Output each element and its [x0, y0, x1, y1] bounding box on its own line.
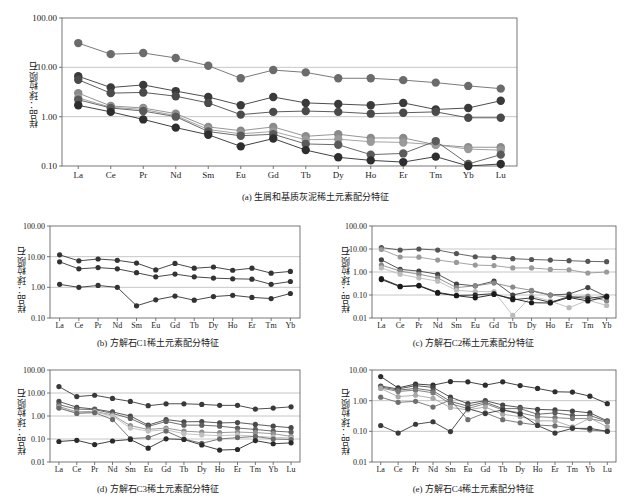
data-point	[172, 112, 180, 120]
data-point	[128, 416, 133, 421]
data-point	[334, 108, 342, 116]
data-point	[552, 423, 557, 428]
x-tick-label: Er	[248, 321, 256, 330]
data-point	[510, 313, 515, 318]
data-point	[510, 256, 515, 261]
data-point	[465, 379, 470, 384]
data-point	[483, 411, 488, 416]
data-point	[230, 276, 235, 281]
x-tick-label: Sm	[445, 465, 456, 474]
data-point	[604, 269, 609, 274]
x-tick-label: Eu	[471, 321, 480, 330]
data-point	[230, 293, 235, 298]
data-point	[399, 76, 407, 84]
y-tick-label: 10.00	[316, 366, 367, 375]
x-tick-label: Ce	[394, 465, 403, 474]
data-point	[146, 429, 151, 434]
data-point	[288, 291, 293, 296]
data-point	[181, 431, 186, 436]
data-point	[146, 446, 151, 451]
y-tick-label: 0.10	[0, 161, 57, 171]
x-tick-label: Tm	[250, 465, 261, 474]
y-tick-label: 0.10	[316, 427, 367, 436]
x-tick-label: Lu	[496, 170, 506, 180]
data-point	[399, 109, 407, 117]
data-point	[192, 274, 197, 279]
data-point	[535, 386, 540, 391]
data-point	[529, 295, 534, 300]
data-point	[605, 420, 610, 425]
data-point	[211, 294, 216, 299]
x-tick-label: Gd	[161, 465, 171, 474]
data-point	[497, 150, 505, 158]
data-point	[587, 426, 592, 431]
data-point	[107, 108, 115, 116]
data-point	[378, 423, 383, 428]
data-point	[430, 396, 435, 401]
x-tick-label: Er	[234, 465, 242, 474]
data-point	[172, 92, 180, 100]
data-point	[585, 285, 590, 290]
data-point	[491, 292, 496, 297]
data-point	[367, 109, 375, 117]
data-point	[435, 247, 440, 252]
x-tick-label: Nd	[108, 465, 118, 474]
data-point	[269, 93, 277, 101]
data-point	[605, 429, 610, 434]
data-point	[217, 447, 222, 452]
data-point	[153, 274, 158, 279]
data-point	[518, 383, 523, 388]
data-point	[269, 296, 274, 301]
data-point	[92, 393, 97, 398]
data-point	[464, 82, 472, 90]
data-point	[398, 247, 403, 252]
data-point	[253, 406, 258, 411]
x-tick-label: Ce	[72, 465, 81, 474]
x-tick-label: La	[376, 465, 384, 474]
data-point	[413, 399, 418, 404]
data-point	[288, 279, 293, 284]
data-point	[199, 432, 204, 437]
data-point	[491, 280, 496, 285]
data-point	[288, 440, 293, 445]
data-point	[378, 374, 383, 379]
data-point	[302, 146, 310, 154]
data-point	[204, 61, 212, 69]
data-point	[566, 258, 571, 263]
data-point	[74, 39, 82, 47]
data-point	[115, 258, 120, 263]
data-point	[552, 389, 557, 394]
data-point	[163, 436, 168, 441]
panel-b-calcite-c1: 样品：球粒陨石 100.0010.001.000.10LaCePrNdSmEuG…	[0, 212, 316, 358]
x-tick-label: Tm	[567, 465, 578, 474]
data-point	[249, 295, 254, 300]
data-point	[271, 436, 276, 441]
data-point	[379, 257, 384, 262]
data-point	[288, 269, 293, 274]
data-point	[235, 447, 240, 452]
x-tick-label: Ho	[365, 170, 376, 180]
data-point	[570, 416, 575, 421]
x-tick-label: Nd	[428, 465, 438, 474]
data-point	[379, 265, 384, 270]
data-point	[430, 419, 435, 424]
data-point	[518, 411, 523, 416]
data-point	[217, 403, 222, 408]
data-point	[235, 435, 240, 440]
data-point	[483, 383, 488, 388]
x-tick-label: Ho	[545, 321, 555, 330]
x-tick-label: La	[74, 170, 84, 180]
data-point	[57, 252, 62, 257]
data-point	[92, 410, 97, 415]
data-point	[396, 400, 401, 405]
data-point	[204, 99, 212, 107]
x-tick-label: Ce	[396, 321, 405, 330]
x-tick-label: Yb	[268, 465, 278, 474]
data-point	[529, 265, 534, 270]
data-point	[110, 396, 115, 401]
x-tick-label: Ho	[215, 465, 225, 474]
data-point	[604, 259, 609, 264]
data-point	[367, 138, 375, 146]
series-line	[59, 387, 291, 409]
data-point	[464, 162, 472, 170]
